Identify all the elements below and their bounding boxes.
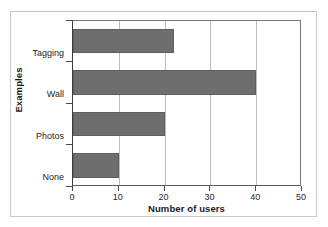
bar-wall [73,70,256,95]
x-tick-mark-10 [118,186,119,191]
y-axis-tick-labels: Tagging Wall Photos None [6,20,68,186]
x-tick-label-20: 20 [144,192,184,202]
gridline-30 [210,21,211,185]
bar-photos [73,112,165,136]
gridline-40 [256,21,257,185]
x-tick-label-50: 50 [281,192,321,202]
x-tick-mark-20 [164,186,165,191]
x-tick-mark-50 [301,186,302,191]
x-tick-mark-0 [72,186,73,191]
y-tick-label-wall: Wall [47,88,64,100]
chart-figure: Examples Tagging Wall Photos None 0 10 2… [0,0,328,227]
x-tick-label-0: 0 [52,192,92,202]
y-tick-label-none: None [42,171,64,183]
x-tick-mark-40 [255,186,256,191]
x-axis-title: Number of users [72,203,301,214]
plot-area [72,20,301,186]
x-tick-mark-30 [209,186,210,191]
bar-none [73,153,119,178]
y-tick-label-tagging: Tagging [32,47,64,59]
y-tick-label-photos: Photos [36,130,64,142]
x-tick-label-40: 40 [235,192,275,202]
bar-tagging [73,29,174,53]
x-tick-label-10: 10 [98,192,138,202]
x-tick-label-30: 30 [189,192,229,202]
